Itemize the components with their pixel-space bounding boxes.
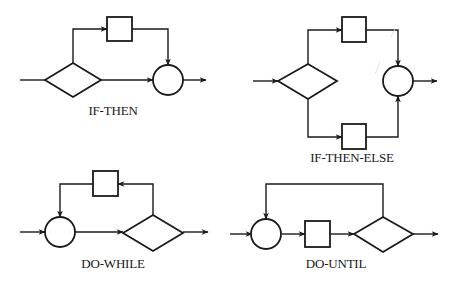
- panel-label: DO-UNTIL: [306, 256, 367, 271]
- loop-to-box-arrow: [118, 184, 153, 215]
- panel-label: IF-THEN-ELSE: [310, 150, 394, 165]
- then-branch-arrow: [308, 30, 342, 64]
- box-to-junction-arrow: [132, 29, 168, 65]
- junction-circle: [153, 65, 183, 95]
- else-to-junction-arrow: [366, 96, 398, 137]
- scan-artifact: [375, 62, 380, 74]
- junction-circle: [45, 217, 75, 247]
- junction-circle: [251, 219, 281, 249]
- panel-label: IF-THEN: [88, 103, 138, 118]
- then-to-junction-arrow: [366, 30, 398, 66]
- panel-if-then: IF-THEN: [20, 17, 206, 118]
- loop-back-arrow: [266, 184, 383, 219]
- loop-box: [93, 171, 118, 196]
- else-box: [342, 124, 366, 149]
- panel-do-until: DO-UNTIL: [230, 184, 438, 271]
- control-structures-diagram: IF-THEN IF-THEN-ELSE DO-WHILE: [0, 0, 456, 284]
- process-box: [107, 17, 132, 41]
- junction-circle: [383, 66, 413, 96]
- decision-diamond: [123, 215, 183, 251]
- decision-diamond: [278, 64, 337, 99]
- panel-if-then-else: IF-THEN-ELSE: [253, 17, 437, 165]
- else-branch-arrow: [308, 99, 342, 137]
- process-box: [305, 221, 330, 247]
- decision-diamond: [354, 217, 413, 252]
- box-to-junction-arrow: [60, 184, 93, 217]
- decision-diamond: [45, 63, 101, 97]
- panel-label: DO-WHILE: [81, 256, 145, 271]
- then-branch-arrow: [73, 29, 107, 63]
- panel-do-while: DO-WHILE: [20, 171, 208, 271]
- then-box: [342, 17, 366, 42]
